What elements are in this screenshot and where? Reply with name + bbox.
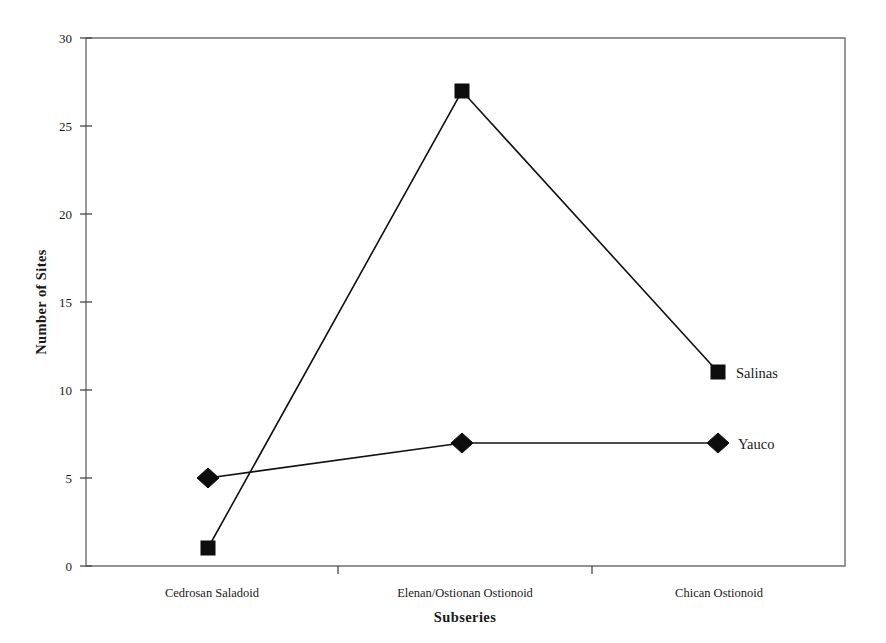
x-category-label-1: Elenan/Ostionan Ostionoid bbox=[397, 586, 533, 600]
plot-frame bbox=[86, 38, 845, 566]
y-tick-label-15: 15 bbox=[59, 295, 72, 310]
x-category-label-0: Cedrosan Saladoid bbox=[165, 586, 260, 600]
data-point-salinas-2 bbox=[711, 365, 725, 379]
x-axis-category-labels: Cedrosan Saladoid Elenan/Ostionan Ostion… bbox=[165, 586, 764, 600]
series-label-yauco: Yauco bbox=[738, 436, 774, 452]
y-axis-tick-labels: 30 25 20 15 10 5 0 bbox=[59, 31, 72, 574]
x-axis-title: Subseries bbox=[434, 609, 496, 625]
data-point-yauco-2 bbox=[707, 433, 729, 453]
y-axis-title: Number of Sites bbox=[33, 249, 49, 355]
data-point-yauco-0 bbox=[197, 468, 219, 488]
series-label-salinas: Salinas bbox=[736, 365, 778, 381]
chart-figure: 30 25 20 15 10 5 0 Number of Sites Cedro… bbox=[0, 0, 886, 643]
data-point-yauco-1 bbox=[451, 433, 473, 453]
series-markers-yauco bbox=[197, 433, 729, 488]
x-axis-ticks bbox=[338, 566, 592, 574]
series-line-salinas bbox=[208, 91, 718, 548]
series-markers-salinas bbox=[201, 84, 725, 555]
data-point-salinas-1 bbox=[455, 84, 469, 98]
y-tick-label-30: 30 bbox=[59, 31, 72, 46]
y-tick-label-25: 25 bbox=[59, 119, 72, 134]
line-chart: 30 25 20 15 10 5 0 Number of Sites Cedro… bbox=[0, 0, 886, 643]
y-tick-label-5: 5 bbox=[66, 471, 73, 486]
data-point-salinas-0 bbox=[201, 541, 215, 555]
y-tick-label-10: 10 bbox=[59, 383, 72, 398]
y-tick-label-20: 20 bbox=[59, 207, 72, 222]
y-tick-label-0: 0 bbox=[66, 559, 73, 574]
x-category-label-2: Chican Ostionoid bbox=[675, 586, 764, 600]
